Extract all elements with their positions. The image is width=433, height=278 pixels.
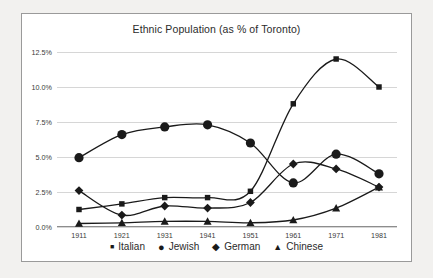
legend-label: Jewish (169, 242, 200, 252)
y-tick-label: 7.5% (36, 118, 52, 127)
data-point-circle (374, 169, 383, 178)
data-point-diamond (289, 160, 298, 169)
chart-title: Ethnic Population (as % of Toronto) (22, 23, 411, 35)
x-tick-label: 1921 (114, 231, 130, 240)
series-layer (57, 52, 397, 227)
gridline (57, 227, 397, 228)
data-point-square (333, 56, 338, 61)
y-tick-label: 12.5% (32, 48, 52, 57)
x-tick-label: 1911 (71, 231, 86, 240)
y-tick-label: 10.0% (32, 83, 52, 92)
data-point-square (205, 195, 210, 200)
data-point-square (119, 201, 124, 206)
data-point-diamond (160, 202, 169, 211)
x-tick-label: 1931 (157, 231, 173, 240)
x-tick-label: 1961 (285, 231, 301, 240)
legend-label: Italian (118, 242, 145, 252)
series-jewish (74, 120, 383, 187)
legend-label: Chinese (286, 242, 323, 252)
data-point-diamond (203, 204, 212, 213)
y-tick-label: 5.0% (36, 153, 52, 162)
chart-frame: Ethnic Population (as % of Toronto) 0.0%… (21, 13, 412, 262)
y-tick-label: 2.5% (36, 188, 52, 197)
data-point-diamond (75, 186, 84, 195)
legend-item-chinese[interactable]: ▲Chinese (273, 242, 323, 252)
chart-legend: ■Italian●Jewish◆German▲Chinese (22, 242, 411, 252)
data-point-square (76, 207, 81, 212)
data-point-diamond (117, 211, 126, 220)
legend-label: German (224, 242, 260, 252)
data-point-diamond (246, 198, 255, 207)
data-point-square (248, 189, 253, 194)
data-point-triangle (332, 204, 340, 211)
x-tick-label: 1971 (328, 231, 344, 240)
legend-item-jewish[interactable]: ●Jewish (158, 242, 199, 252)
legend-item-german[interactable]: ◆German (212, 242, 260, 252)
data-point-circle (246, 138, 255, 147)
data-point-diamond (332, 165, 341, 174)
data-point-square (162, 195, 167, 200)
data-point-circle (117, 130, 126, 139)
data-point-square (376, 84, 381, 89)
data-point-circle (160, 122, 169, 131)
data-point-circle (203, 120, 212, 129)
legend-item-italian[interactable]: ■Italian (110, 242, 145, 252)
x-tick-label: 1941 (200, 231, 216, 240)
x-tick-label: 1951 (242, 231, 258, 240)
data-point-circle (74, 153, 83, 162)
plot-area: 0.0%2.5%5.0%7.5%10.0%12.5% 1911192119311… (57, 52, 397, 227)
data-point-square (291, 101, 296, 106)
x-tick-label: 1981 (371, 231, 387, 240)
data-point-circle (332, 150, 341, 159)
data-point-circle (289, 178, 298, 187)
y-tick-label: 0.0% (36, 223, 52, 232)
